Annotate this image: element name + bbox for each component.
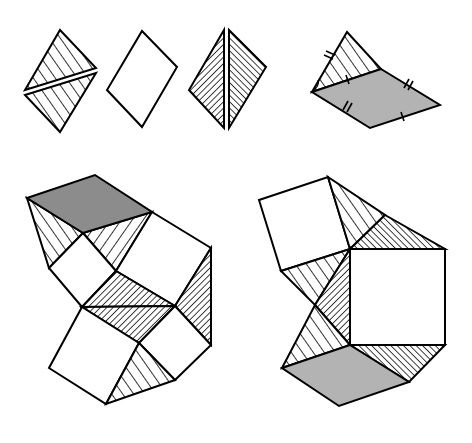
- folded-rhombus-with-triangle: [312, 32, 440, 128]
- split-dense-hatched-rhombus: [189, 30, 266, 128]
- plain-rhombus: [107, 31, 177, 127]
- split-hatched-rhombus: [25, 30, 96, 132]
- right-assembly: [259, 177, 445, 406]
- geometry-diagram: [0, 0, 472, 443]
- white-square-center: [350, 249, 445, 345]
- right-dense-triangle: [229, 30, 266, 128]
- left-assembly: [27, 175, 211, 404]
- left-dense-triangle: [189, 30, 224, 128]
- white-rhombus: [107, 31, 177, 127]
